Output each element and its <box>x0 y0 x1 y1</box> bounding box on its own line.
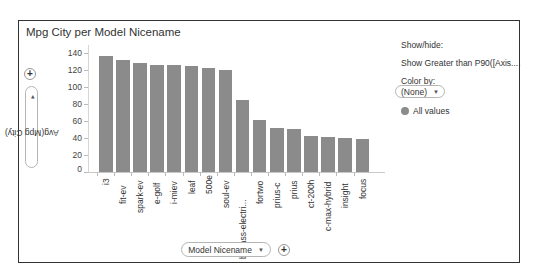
legend-swatch-icon <box>401 107 409 115</box>
color-by-selector[interactable]: (None)▼ <box>395 85 445 98</box>
x-tick-label: insight <box>340 184 350 209</box>
y-tick-mark <box>84 104 88 105</box>
x-tick-mark <box>354 172 355 176</box>
x-tick-label: 500e <box>204 175 214 194</box>
x-tick-mark <box>200 172 201 176</box>
chevron-down-icon: ▼ <box>258 247 264 253</box>
x-tick-label: focus <box>358 179 368 199</box>
x-axis-selector-label: Model Nicename <box>188 245 252 255</box>
y-tick-mark <box>84 172 88 173</box>
x-tick-mark <box>302 172 303 176</box>
x-tick-label: prius <box>289 181 299 199</box>
y-tick-mark <box>84 121 88 122</box>
x-tick-label: leaf <box>187 181 197 195</box>
y-tick-label: 140 <box>52 48 82 58</box>
x-tick-mark <box>285 172 286 176</box>
add-x-axis-button[interactable]: + <box>278 244 290 256</box>
y-tick-mark <box>84 155 88 156</box>
bar-prius[interactable] <box>287 129 301 172</box>
chevron-down-icon: ▼ <box>433 89 439 95</box>
x-tick-label: ct-200h <box>306 180 316 208</box>
x-tick-label: prius-c <box>272 183 282 209</box>
y-axis-line <box>88 45 89 173</box>
bar-spark-ev[interactable] <box>133 63 147 172</box>
bar-fortwo[interactable] <box>253 120 267 172</box>
show-hide-filter-item[interactable]: Show Greater than P90([Axis.... <box>401 58 521 68</box>
bar-i-miev[interactable] <box>167 65 181 172</box>
bar-prius-c[interactable] <box>270 128 284 172</box>
x-tick-mark <box>234 172 235 176</box>
x-tick-label: soul-ev <box>221 181 231 208</box>
x-tick-mark <box>114 172 115 176</box>
y-tick-mark <box>84 53 88 54</box>
x-tick-mark <box>148 172 149 176</box>
x-tick-label: c-max-hybrid <box>323 182 333 231</box>
x-tick-label: i-miev <box>169 181 179 204</box>
x-tick-label: fortwo <box>255 180 265 203</box>
bar-ct-200h[interactable] <box>304 136 318 172</box>
bar-i3[interactable] <box>99 56 113 172</box>
x-tick-mark <box>217 172 218 176</box>
bar-c-max-hybrid[interactable] <box>321 137 335 172</box>
x-tick-mark <box>97 172 98 176</box>
y-tick-label: 60 <box>52 116 82 126</box>
x-tick-label: e-golf <box>152 182 162 203</box>
x-tick-mark <box>131 172 132 176</box>
bar-insight[interactable] <box>338 138 352 172</box>
y-axis-selector-label: Avg(Mpg City) <box>5 128 59 138</box>
x-tick-label: fit-ev <box>118 185 128 203</box>
color-by-value: (None) <box>401 87 427 97</box>
x-tick-mark <box>268 172 269 176</box>
x-tick-mark <box>251 172 252 176</box>
show-hide-label: Show/hide: <box>401 40 443 50</box>
y-tick-mark <box>84 138 88 139</box>
y-axis-selector[interactable]: Avg(Mpg City)▼ <box>25 86 38 168</box>
x-tick-mark <box>319 172 320 176</box>
bar-500e[interactable] <box>202 68 216 172</box>
y-tick-mark <box>84 87 88 88</box>
bar-leaf[interactable] <box>185 66 199 172</box>
y-tick-label: 100 <box>52 82 82 92</box>
x-tick-mark <box>165 172 166 176</box>
bar-b-class-electri...[interactable] <box>236 100 250 172</box>
bar-fit-ev[interactable] <box>116 60 130 172</box>
chart-title: Mpg City per Model Nicename <box>26 26 181 38</box>
x-axis-line <box>88 172 385 173</box>
x-tick-label: i3 <box>101 179 111 186</box>
legend-item-all-values[interactable]: All values <box>413 106 449 116</box>
x-tick-mark <box>336 172 337 176</box>
visualization-frame <box>18 20 520 263</box>
x-axis-selector[interactable]: Model Nicename▼ <box>181 242 271 257</box>
bar-focus[interactable] <box>356 139 370 172</box>
bar-e-golf[interactable] <box>150 65 164 172</box>
y-tick-label: 120 <box>52 65 82 75</box>
y-tick-mark <box>84 70 88 71</box>
y-tick-label: 0 <box>52 164 82 174</box>
y-tick-label: 20 <box>52 150 82 160</box>
bar-soul-ev[interactable] <box>219 70 233 172</box>
x-tick-label: spark-ev <box>135 180 145 213</box>
add-y-axis-button[interactable]: + <box>24 68 36 80</box>
x-tick-mark <box>183 172 184 176</box>
chevron-down-icon: ▼ <box>30 94 36 100</box>
y-tick-label: 80 <box>52 99 82 109</box>
